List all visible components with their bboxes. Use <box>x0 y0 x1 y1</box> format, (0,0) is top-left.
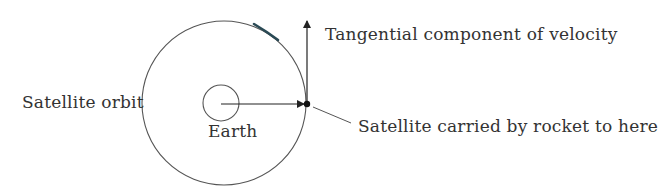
satellite-leader-line <box>313 107 351 123</box>
satellite-position-label: Satellite carried by rocket to here <box>358 118 658 135</box>
earth-label: Earth <box>208 123 257 140</box>
satellite-dot <box>304 101 310 107</box>
satellite-orbit-circle <box>142 21 306 185</box>
earth-circle <box>203 85 239 121</box>
satellite-orbit-label: Satellite orbit <box>22 94 144 111</box>
tangential-velocity-label: Tangential component of velocity <box>325 26 618 43</box>
orbit-direction-arc <box>254 24 278 40</box>
